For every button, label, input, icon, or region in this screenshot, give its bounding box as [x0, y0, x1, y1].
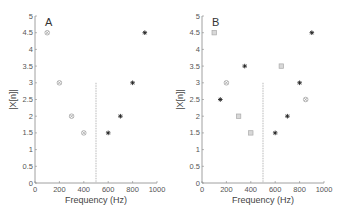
y-tick-label: 3 [29, 78, 33, 87]
circle-x-marker [45, 30, 50, 35]
asterisk-marker [130, 81, 135, 86]
circle-x-marker [69, 114, 74, 119]
y-tick-label: 4.5 [190, 28, 200, 37]
y-tick-label: 2.5 [190, 95, 200, 104]
y-tick-label: 3.5 [190, 62, 200, 71]
asterisk-marker [218, 97, 223, 102]
x-axis-label: Frequency (Hz) [232, 195, 294, 205]
asterisk-marker [310, 30, 315, 35]
y-tick-label: 3 [196, 78, 200, 87]
y-axis-label: |X[n]| [175, 89, 185, 110]
y-tick-label: 1.5 [190, 128, 200, 137]
x-tick-label: 600 [102, 185, 115, 194]
asterisk-marker [143, 30, 148, 35]
x-tick-label: 600 [269, 185, 282, 194]
y-tick-label: 1 [29, 145, 33, 154]
x-tick-label: 800 [293, 185, 306, 194]
asterisk-marker [242, 64, 247, 69]
y-tick-label: 0.5 [23, 162, 33, 171]
panel-label: B [212, 16, 219, 28]
y-axis-label: |X[n]| [8, 89, 18, 110]
x-tick-label: 400 [245, 185, 258, 194]
y-tick-label: 5 [196, 12, 200, 21]
y-tick-label: 2 [196, 112, 200, 121]
y-tick-label: 2.5 [23, 95, 33, 104]
square-marker [236, 114, 240, 118]
x-tick-label: 400 [78, 185, 91, 194]
y-tick-label: 4 [196, 45, 200, 54]
circle-x-marker [303, 97, 308, 102]
chart-canvas: 00.511.522.533.544.5502004006008001000Fr… [0, 0, 342, 210]
chart-panel-b: 00.511.522.533.544.5502004006008001000Fr… [175, 12, 332, 206]
y-tick-label: 1.5 [23, 128, 33, 137]
square-marker [279, 64, 283, 68]
square-marker [212, 31, 216, 35]
y-tick-label: 1 [196, 145, 200, 154]
y-tick-label: 4 [29, 45, 33, 54]
asterisk-marker [297, 81, 302, 86]
y-tick-label: 4.5 [23, 28, 33, 37]
x-tick-label: 0 [200, 185, 204, 194]
x-tick-label: 0 [33, 185, 37, 194]
asterisk-marker [285, 114, 290, 119]
asterisk-marker [273, 131, 278, 136]
x-tick-label: 200 [53, 185, 66, 194]
square-marker [249, 131, 253, 135]
chart-panel-a: 00.511.522.533.544.5502004006008001000Fr… [8, 12, 165, 206]
y-tick-label: 5 [29, 12, 33, 21]
asterisk-marker [118, 114, 123, 119]
asterisk-marker [106, 131, 111, 136]
x-tick-label: 1000 [316, 185, 333, 194]
x-axis-label: Frequency (Hz) [65, 195, 127, 205]
y-tick-label: 2 [29, 112, 33, 121]
y-tick-label: 3.5 [23, 62, 33, 71]
y-tick-label: 0.5 [190, 162, 200, 171]
circle-x-marker [82, 131, 87, 136]
x-tick-label: 1000 [149, 185, 166, 194]
x-tick-label: 800 [126, 185, 139, 194]
circle-x-marker [57, 81, 62, 86]
circle-x-marker [224, 81, 229, 86]
x-tick-label: 200 [220, 185, 233, 194]
panel-label: A [45, 16, 53, 28]
